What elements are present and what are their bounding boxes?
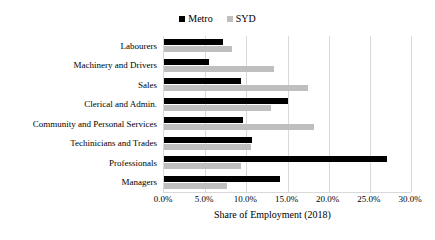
bar-group	[164, 173, 411, 193]
bar-metro[interactable]	[164, 59, 209, 65]
category-axis-labels: LabourersMachinery and DriversSalesCleri…	[0, 36, 161, 192]
plot-wrapper: LabourersMachinery and DriversSalesCleri…	[0, 36, 435, 192]
legend-item-metro[interactable]: Metro	[179, 13, 212, 24]
bar-group	[164, 134, 411, 154]
bar-group	[164, 114, 411, 134]
legend-label: SYD	[236, 13, 256, 24]
x-tick-label: 20.0%	[316, 194, 339, 205]
bar-group	[164, 75, 411, 95]
category-label: Community and Personal Services	[0, 114, 161, 134]
bar-group	[164, 153, 411, 173]
bar-syd[interactable]	[164, 124, 314, 130]
x-axis-line	[163, 192, 411, 193]
category-label: Managers	[0, 173, 161, 193]
x-axis-title-text: Share of Employment (2018)	[104, 209, 331, 220]
bar-groups	[164, 36, 411, 192]
category-label: Professionals	[0, 153, 161, 173]
x-tick-label: 5.0%	[195, 194, 214, 205]
x-tick-label: 0.0%	[154, 194, 173, 205]
bar-chart: MetroSYD LabourersMachinery and DriversS…	[0, 0, 435, 240]
x-axis-title: Share of Employment (2018)	[0, 209, 435, 221]
plot-area	[163, 36, 411, 192]
square-marker-icon	[179, 16, 185, 22]
bar-syd[interactable]	[164, 183, 227, 189]
bar-metro[interactable]	[164, 176, 280, 182]
bar-metro[interactable]	[164, 117, 243, 123]
bar-syd[interactable]	[164, 46, 232, 52]
x-tick-label: 10.0%	[234, 194, 257, 205]
square-marker-icon	[227, 16, 233, 22]
gridline	[411, 36, 412, 192]
chart-legend: MetroSYD	[0, 13, 435, 24]
bar-group	[164, 95, 411, 115]
category-label: Clerical and Admin.	[0, 95, 161, 115]
bar-syd[interactable]	[164, 144, 251, 150]
category-label: Labourers	[0, 36, 161, 56]
bar-metro[interactable]	[164, 39, 223, 45]
bar-metro[interactable]	[164, 78, 241, 84]
bar-syd[interactable]	[164, 105, 271, 111]
bar-syd[interactable]	[164, 85, 308, 91]
bar-metro[interactable]	[164, 98, 288, 104]
category-label: Techinicians and Trades	[0, 134, 161, 154]
bar-metro[interactable]	[164, 137, 252, 143]
legend-item-syd[interactable]: SYD	[227, 13, 256, 24]
x-tick-label: 15.0%	[275, 194, 298, 205]
x-axis-ticks: 0.0%5.0%10.0%15.0%20.0%25.0%30.0%	[0, 194, 435, 208]
bar-syd[interactable]	[164, 163, 241, 169]
bar-group	[164, 36, 411, 56]
category-label: Sales	[0, 75, 161, 95]
bar-group	[164, 56, 411, 76]
legend-label: Metro	[188, 13, 212, 24]
category-label: Machinery and Drivers	[0, 56, 161, 76]
x-tick-label: 25.0%	[357, 194, 380, 205]
x-tick-label: 30.0%	[398, 194, 421, 205]
bar-syd[interactable]	[164, 66, 274, 72]
bar-metro[interactable]	[164, 156, 387, 162]
